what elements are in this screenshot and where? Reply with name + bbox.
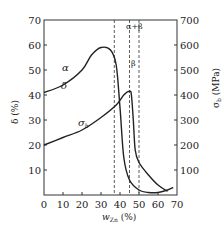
chart: 0102030405060701020304050607010020030040… (0, 0, 224, 225)
beta-region-label: β (131, 59, 136, 68)
x-tick-label: 0 (41, 199, 47, 210)
x-tick-label: 50 (133, 199, 146, 210)
y-left-tick-label: 40 (28, 90, 41, 101)
y-left-tick-label: 60 (28, 40, 41, 51)
y-axis-left-label: δ (%) (10, 100, 20, 124)
sigma-curve-label: σb (78, 117, 89, 129)
x-tick-label: 60 (152, 199, 165, 210)
y-right-tick-label: 500 (180, 65, 199, 76)
sigma-b-curve (44, 91, 168, 191)
x-tick-label: 10 (57, 199, 70, 210)
phase-boundaries (114, 20, 139, 195)
y-right-tick-label: 400 (180, 90, 199, 101)
x-tick-label: 70 (171, 199, 184, 210)
y-left-tick-label: 70 (28, 15, 41, 26)
y-left-tick-label: 50 (28, 65, 41, 76)
x-axis-label: wZn (%) (102, 212, 136, 223)
y-right-tick-label: 200 (180, 140, 199, 151)
x-tick-label: 20 (76, 199, 89, 210)
delta-curve-label: δ (61, 80, 67, 91)
y-left-tick-label: 30 (28, 115, 41, 126)
y-right-tick-label: 700 (180, 15, 199, 26)
y-right-tick-label: 600 (180, 40, 199, 51)
y-left-tick-label: 10 (28, 165, 41, 176)
axis-ticks: 0102030405060701020304050607010020030040… (28, 15, 199, 210)
y-right-tick-label: 300 (180, 115, 199, 126)
y-axis-right-label: σb (MPa) (211, 68, 222, 108)
alpha-beta-region-label: α+β (126, 22, 143, 31)
y-left-tick-label: 20 (28, 140, 41, 151)
alpha-region-label: α (62, 62, 69, 73)
x-tick-label: 30 (95, 199, 108, 210)
plot-frame (44, 20, 177, 195)
y-right-tick-label: 100 (180, 165, 199, 176)
x-tick-label: 40 (114, 199, 127, 210)
plot-border (44, 20, 177, 195)
